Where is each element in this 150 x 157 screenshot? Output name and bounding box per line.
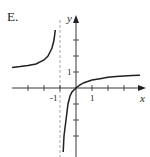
- y-axis-label: y: [66, 12, 72, 24]
- x-tick-label-1: 1: [90, 93, 95, 103]
- graph: y x -1 1 1: [0, 0, 150, 157]
- y-tick-label-1: 1: [67, 67, 72, 77]
- x-axis-arrow-icon: [138, 85, 146, 91]
- y-axis-arrow-icon: [73, 15, 79, 23]
- x-axis-label: x: [139, 92, 145, 104]
- curve-left-branch: [12, 30, 55, 67]
- curve-right-branch: [63, 75, 140, 152]
- x-tick-label-neg1: -1: [50, 93, 58, 103]
